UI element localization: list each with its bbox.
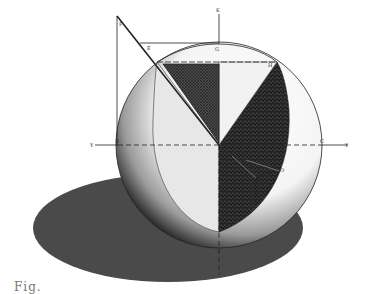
label-E: E	[147, 45, 151, 51]
label-O: O	[280, 167, 284, 173]
label-Y-left: Y	[89, 142, 94, 148]
label-H: H	[268, 62, 273, 68]
label-C: C	[320, 138, 324, 144]
label-D: D	[115, 138, 119, 144]
label-G: G	[215, 46, 219, 52]
label-F: F	[119, 21, 123, 27]
label-K: K	[216, 7, 220, 13]
label-Y-right: Y	[344, 142, 349, 148]
figure-caption: Fig.	[14, 280, 42, 294]
label-R: R	[252, 204, 256, 210]
